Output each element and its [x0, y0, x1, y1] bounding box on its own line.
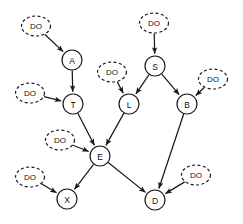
do-node-x[interactable]: DO: [16, 167, 45, 187]
graph-node-b[interactable]: B: [177, 94, 197, 114]
edge-DO_T-to-T: [44, 97, 61, 101]
do-ellipse-shape: [46, 130, 75, 150]
edge-DO_L-to-L: [117, 82, 123, 93]
do-node-s[interactable]: DO: [140, 13, 169, 33]
graph-node-e[interactable]: E: [90, 146, 110, 166]
do-ellipse-shape: [182, 165, 211, 185]
nodes-layer: DODODODODODODODOATSLBEXD: [16, 13, 228, 210]
do-node-t[interactable]: DO: [16, 83, 45, 103]
node-circle-shape: [62, 50, 82, 70]
node-circle-shape: [177, 94, 197, 114]
edge-S-to-L: [136, 75, 149, 94]
node-circle-shape: [57, 189, 77, 209]
graph-node-d[interactable]: D: [145, 190, 165, 210]
graph-svg: DODODODODODODODOATSLBEXD: [0, 0, 243, 224]
node-circle-shape: [145, 56, 165, 76]
do-node-l[interactable]: DO: [98, 62, 127, 82]
do-ellipse-shape: [140, 13, 169, 33]
graph-node-l[interactable]: L: [119, 94, 139, 114]
node-circle-shape: [145, 190, 165, 210]
do-node-b[interactable]: DO: [199, 69, 228, 89]
edge-L-to-E: [106, 113, 124, 145]
diagram-canvas: DODODODODODODODOATSLBEXD: [0, 0, 243, 224]
do-ellipse-shape: [16, 167, 45, 187]
graph-node-a[interactable]: A: [62, 50, 82, 70]
do-ellipse-shape: [98, 62, 127, 82]
edge-E-to-D: [108, 163, 145, 193]
edge-T-to-E: [78, 113, 95, 145]
edge-DO_E-to-E: [73, 145, 89, 151]
graph-node-s[interactable]: S: [145, 56, 165, 76]
edge-S-to-B: [162, 74, 179, 95]
do-node-d[interactable]: DO: [182, 165, 211, 185]
do-node-a[interactable]: DO: [22, 16, 51, 36]
edge-E-to-X: [74, 164, 93, 189]
do-node-e[interactable]: DO: [46, 130, 75, 150]
node-circle-shape: [63, 94, 83, 114]
graph-node-t[interactable]: T: [63, 94, 83, 114]
graph-node-x[interactable]: X: [57, 189, 77, 209]
do-ellipse-shape: [16, 83, 45, 103]
node-circle-shape: [119, 94, 139, 114]
do-ellipse-shape: [22, 16, 51, 36]
edge-DO_A-to-A: [45, 34, 63, 51]
node-circle-shape: [90, 146, 110, 166]
edge-DO_X-to-X: [41, 184, 56, 193]
do-ellipse-shape: [199, 69, 228, 89]
edge-DO_B-to-B: [196, 87, 204, 95]
edge-DO_D-to-D: [165, 182, 184, 194]
edge-B-to-D: [159, 114, 184, 188]
